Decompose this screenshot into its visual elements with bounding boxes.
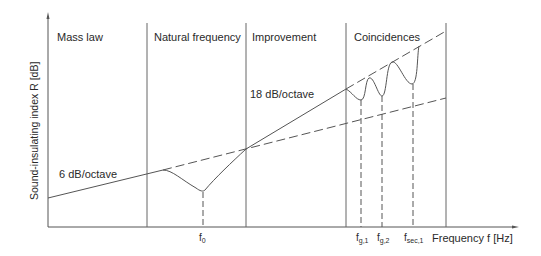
slope-label-18db: 18 dB/octave	[250, 88, 314, 100]
fsec1-label: fsec,1	[404, 232, 424, 244]
slope-label-6db: 6 dB/octave	[59, 168, 117, 180]
region-label-improvement: Improvement	[252, 31, 316, 43]
y-axis-arrow-icon	[47, 12, 50, 19]
natural-frequency-dip	[163, 149, 246, 191]
axes	[47, 12, 520, 229]
y-axis-label: Sound-insulating index R [dB]	[28, 62, 40, 200]
region-label-mass-law: Mass law	[57, 31, 103, 43]
fg1-label: fg,1	[356, 232, 369, 245]
marker-labels: f0 fg,1 fg,2 fsec,1	[199, 232, 424, 245]
region-dividers	[147, 23, 446, 227]
x-axis-arrow-icon	[512, 226, 519, 229]
f0-label: f0	[199, 232, 206, 244]
region-label-natural-frequency: Natural frequency	[154, 31, 241, 43]
x-axis-label: Frequency f [Hz]	[432, 232, 513, 244]
region-label-coincidences: Coincidences	[354, 31, 421, 43]
actual-curve	[163, 46, 419, 191]
frequency-markers	[203, 84, 413, 227]
coincidence-dips	[346, 46, 419, 100]
mass-law-dashed	[163, 98, 446, 170]
sound-insulation-diagram: Mass law Natural frequency Improvement C…	[0, 0, 541, 256]
fg2-label: fg,2	[377, 232, 390, 245]
